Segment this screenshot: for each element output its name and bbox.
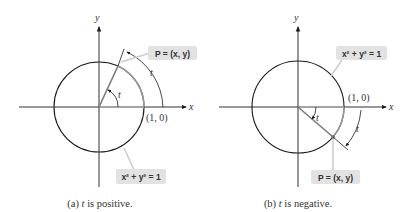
y-axis-label: y: [293, 12, 299, 23]
x-axis-label: x: [388, 101, 394, 112]
arc-length-label: t: [150, 67, 153, 78]
radius-to-point: [99, 66, 118, 107]
radius-extension: [118, 49, 124, 66]
y-axis-label: y: [94, 12, 100, 23]
point-leader: [121, 53, 150, 62]
angle-arc: [108, 90, 118, 107]
panel-a: x y t t (1, 0) P = (x, y) x² + y² = 1 (a…: [19, 12, 197, 210]
equation-leader: [124, 148, 134, 170]
equation-label: x² + y² = 1: [121, 172, 160, 182]
arc-to-point: [118, 66, 144, 107]
caption-a: (a) t is positive.: [67, 198, 132, 210]
unit-circle-figure: x y t t (1, 0) P = (x, y) x² + y² = 1 (a…: [0, 0, 413, 212]
equation-leader: [331, 60, 342, 76]
angle-label: t: [316, 112, 319, 123]
equation-label: x² + y² = 1: [342, 49, 381, 59]
point-1-0-label: (1, 0): [146, 112, 168, 124]
panel-b: x y t t (1, 0) x² + y² = 1 P = (x, y) (b…: [219, 12, 394, 210]
x-axis-label: x: [188, 101, 194, 112]
caption-b: (b) t is negative.: [264, 198, 332, 210]
arc-length-label: t: [356, 123, 359, 134]
radius-extension: [333, 137, 348, 150]
arc-to-point: [333, 107, 344, 137]
point-label: P = (x, y): [155, 49, 190, 59]
arc-length-indicator: [127, 52, 163, 107]
point-label: P = (x, y): [318, 173, 353, 183]
angle-label: t: [118, 89, 121, 100]
point-1-0-label: (1, 0): [348, 92, 370, 104]
